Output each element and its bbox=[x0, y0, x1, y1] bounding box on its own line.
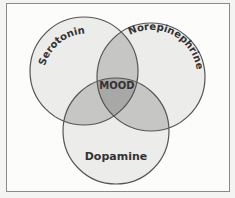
mood-label: MOOD bbox=[99, 80, 134, 91]
dopamine-label: Dopamine bbox=[85, 150, 148, 163]
venn-diagram: Serotonin Norepinephrine Dopamine MOOD bbox=[0, 0, 235, 198]
